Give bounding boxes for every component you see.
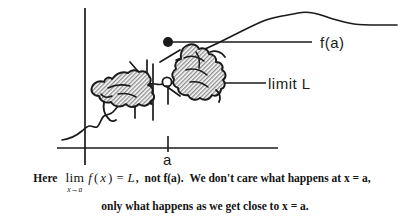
limit-operator-stack: lim x→a bbox=[65, 171, 84, 193]
caption-line-1: Here lim x→a f ( x ) = L , not f(a). We … bbox=[0, 170, 410, 193]
limit-label: limit L bbox=[268, 75, 311, 92]
limit-figure: a f(a) limit L bbox=[0, 0, 410, 165]
caption-not-fa: not f(a). bbox=[145, 172, 184, 184]
open-paren: ( bbox=[94, 170, 98, 186]
variable-x: x bbox=[100, 170, 106, 186]
x-tick-label-a: a bbox=[163, 151, 172, 165]
limit-value-L: L bbox=[127, 170, 134, 186]
function-value-point bbox=[163, 37, 173, 47]
scribble-blob-left bbox=[91, 70, 154, 107]
close-paren: ) bbox=[108, 170, 112, 186]
caption-comma: , bbox=[136, 172, 139, 184]
caption-line1-rest: We don't care what happens at x = a, bbox=[190, 172, 371, 184]
limit-figure-svg: a f(a) limit L bbox=[0, 0, 410, 165]
limit-operator: lim bbox=[65, 171, 84, 185]
caption-lead-word: Here bbox=[33, 172, 57, 184]
limit-point bbox=[162, 77, 171, 86]
equals-sign: = bbox=[116, 171, 123, 186]
figure-caption: Here lim x→a f ( x ) = L , not f(a). We … bbox=[0, 166, 410, 223]
limit-subscript: x→a bbox=[67, 186, 82, 194]
function-value-label: f(a) bbox=[320, 34, 345, 51]
function-symbol-f: f bbox=[88, 170, 92, 186]
caption-line-2: only what happens as we get close to x =… bbox=[0, 200, 410, 212]
